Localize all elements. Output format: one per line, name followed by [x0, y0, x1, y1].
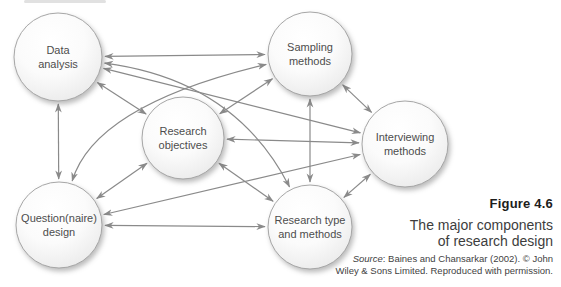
source-line2: Wiley & Sons Limited. Reproduced with pe… [335, 265, 553, 276]
node-da: Dataanalysis [14, 13, 102, 101]
figure-source: Source: Baines and Chansarkar (2002). © … [335, 253, 553, 277]
node-sm-circle [268, 12, 352, 96]
connection-im-rt-arrow [344, 174, 371, 197]
node-sm: Samplingmethods [268, 12, 352, 96]
connection-da-sm-arrow [105, 55, 265, 57]
figure-caption: Figure 4.6 The major componentsof resear… [335, 196, 553, 277]
node-qd: Question(naire)design [16, 182, 102, 268]
figure-title: The major componentsof research design [335, 217, 553, 249]
connection-qd-rt-arrow [105, 225, 265, 226]
node-da-circle [14, 13, 102, 101]
connection-sm-im-arrow [343, 85, 372, 113]
node-im: Interviewingmethods [362, 101, 448, 187]
scan-crop-artifact [24, 0, 106, 3]
connection-ro-qd-arrow [97, 163, 147, 198]
node-qd-circle [16, 182, 102, 268]
source-line1: : Baines and Chansarkar (2002). © John [383, 253, 553, 264]
figure-title-line2: of research design [438, 233, 553, 249]
source-word: Source [353, 253, 383, 264]
figure-number: Figure 4.6 [335, 196, 553, 211]
connection-ro-im-arrow [227, 139, 359, 143]
node-im-circle [362, 101, 448, 187]
figure-title-line1: The major components [410, 217, 553, 233]
connection-ro-rt-arrow [219, 163, 273, 201]
figure-4-6-diagram: DataanalysisSamplingmethodsResearchobjec… [0, 0, 561, 287]
node-ro: Researchobjectives [142, 97, 224, 179]
node-ro-circle [142, 97, 224, 179]
